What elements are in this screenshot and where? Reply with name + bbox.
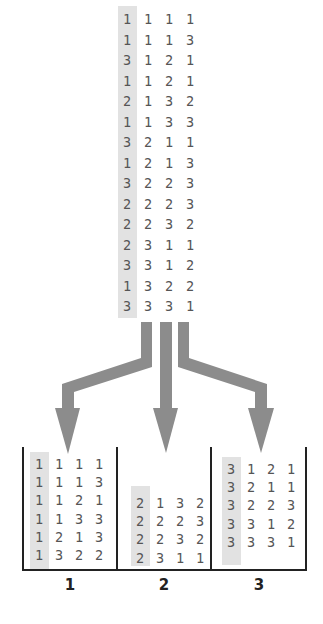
bin-cell: 3 <box>193 512 207 530</box>
bin-cell: 3 <box>92 473 106 491</box>
bin-cell: 1 <box>92 455 106 473</box>
bin-cell: 3 <box>284 496 298 514</box>
bin-cell: 3 <box>224 533 238 551</box>
bin-cell: 2 <box>72 491 86 509</box>
bin-cell: 3 <box>173 494 187 512</box>
bin-cell: 3 <box>173 530 187 548</box>
bin-cell: 3 <box>92 510 106 528</box>
bin-cell: 2 <box>133 530 147 548</box>
bin-cell: 3 <box>72 510 86 528</box>
bin-cell: 1 <box>193 549 207 567</box>
bin-cell: 1 <box>52 455 66 473</box>
bin-cell: 1 <box>284 478 298 496</box>
arrow-to-bin-1 <box>55 322 152 454</box>
bin-divider-2-3 <box>210 447 212 571</box>
bin-cell: 2 <box>133 512 147 530</box>
bin-divider-1-2 <box>116 447 118 571</box>
bin-cell: 1 <box>72 455 86 473</box>
bin-divider-right <box>305 447 307 571</box>
bin-cell: 2 <box>284 515 298 533</box>
bin-cell: 1 <box>32 473 46 491</box>
bin-cell: 2 <box>92 546 106 564</box>
bin-cell: 3 <box>244 515 258 533</box>
bin-baseline <box>22 569 307 571</box>
bin-cell: 1 <box>173 549 187 567</box>
bin-cell: 1 <box>264 478 278 496</box>
bin-cell: 1 <box>264 515 278 533</box>
bin-cell: 1 <box>244 460 258 478</box>
arrow-to-bin-2 <box>153 322 178 453</box>
bin-cell: 2 <box>244 496 258 514</box>
bin-cell: 2 <box>264 496 278 514</box>
bin-cell: 2 <box>133 494 147 512</box>
arrow-to-bin-3 <box>178 322 274 453</box>
bin-cell: 2 <box>133 549 147 567</box>
bin-cell: 1 <box>284 533 298 551</box>
bin-cell: 3 <box>224 460 238 478</box>
bin-cell: 1 <box>32 546 46 564</box>
bin-cell: 1 <box>153 494 167 512</box>
bin-cell: 2 <box>173 512 187 530</box>
bin-cell: 2 <box>52 528 66 546</box>
bin-divider-left <box>22 447 24 571</box>
bin-cell: 2 <box>244 478 258 496</box>
bin-cell: 3 <box>52 546 66 564</box>
bin-cell: 3 <box>244 533 258 551</box>
bin-cell: 1 <box>52 510 66 528</box>
bin-cell: 1 <box>32 455 46 473</box>
bin-cell: 1 <box>32 528 46 546</box>
bin-cell: 1 <box>52 491 66 509</box>
bin-label-2: 2 <box>144 576 184 594</box>
bin-cell: 3 <box>224 496 238 514</box>
bin-cell: 1 <box>284 460 298 478</box>
bin-cell: 3 <box>92 528 106 546</box>
bin-cell: 1 <box>32 510 46 528</box>
bin-cell: 1 <box>72 473 86 491</box>
bin-cell: 1 <box>72 528 86 546</box>
bin-cell: 1 <box>32 491 46 509</box>
bin-label-1: 1 <box>50 576 90 594</box>
bin-cell: 2 <box>153 530 167 548</box>
bin-cell: 3 <box>153 549 167 567</box>
bin-cell: 2 <box>153 512 167 530</box>
bin-cell: 2 <box>264 460 278 478</box>
bin-cell: 3 <box>264 533 278 551</box>
bin-cell: 3 <box>224 478 238 496</box>
bin-cell: 1 <box>92 491 106 509</box>
bin-cell: 2 <box>72 546 86 564</box>
bin-cell: 3 <box>224 515 238 533</box>
bin-cell: 2 <box>193 530 207 548</box>
bin-cell: 1 <box>52 473 66 491</box>
bin-label-3: 3 <box>239 576 279 594</box>
bin-cell: 2 <box>193 494 207 512</box>
